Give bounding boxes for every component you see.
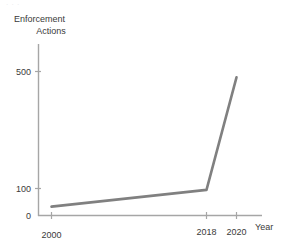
line-chart: · · · Enforcement Actions Year 500 100 0… — [0, 0, 283, 251]
y-tick-label-0: 0 — [26, 211, 31, 221]
y-tick-label-500: 500 — [16, 67, 31, 77]
x-tick-label-2020: 2020 — [226, 227, 246, 237]
y-tick-label-100: 100 — [16, 184, 31, 194]
plot-area: 500 100 0 2000 2018 2020 — [0, 0, 283, 251]
x-tick-label-2000: 2000 — [41, 230, 61, 240]
x-tick-label-2018: 2018 — [196, 227, 216, 237]
series-enforcement-actions — [52, 77, 237, 206]
